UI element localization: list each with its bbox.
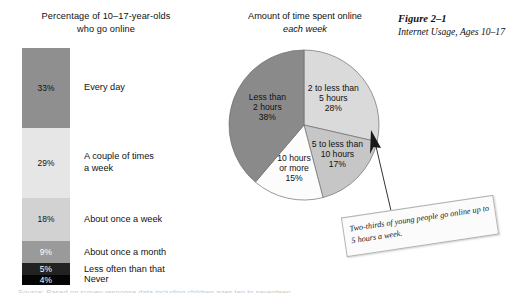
bar-segment-label: Less often than that: [84, 264, 165, 275]
bar-segment-value: 5%: [40, 265, 52, 273]
pie-slices: [229, 50, 379, 200]
bar-segment-label: About once a week: [84, 214, 162, 225]
bar-title-line-1: Percentage of 10–17-year-olds: [8, 10, 204, 23]
bar-segment-value: 29%: [37, 159, 54, 167]
bar-segment-value: 18%: [37, 215, 54, 223]
figure-number: Figure 2–1: [398, 12, 516, 26]
bar-segment-value: 4%: [40, 276, 52, 284]
source-note: Source: Based on survey response data in…: [18, 288, 488, 293]
pie-title-line-1: Amount of time spent online: [212, 10, 398, 23]
pie-title-line-2: each week: [212, 23, 398, 36]
figure-page: Percentage of 10–17-year-olds who go onl…: [0, 0, 518, 293]
figure-caption: Figure 2–1 Internet Usage, Ages 10–17: [398, 12, 516, 39]
bar-segment: 9%: [22, 241, 70, 263]
bar-segment: 4%: [22, 275, 70, 285]
stacked-bar: 33%29%18%9%5%4%: [22, 48, 70, 285]
bar-segment: 5%: [22, 263, 70, 275]
bar-chart-panel: Percentage of 10–17-year-olds who go onl…: [0, 0, 212, 293]
bar-segment: 33%: [22, 48, 70, 128]
bar-segment: 29%: [22, 128, 70, 198]
bar-segment-label: Never: [84, 274, 109, 285]
bar-segment-label: About once a month: [84, 247, 166, 258]
bar-title-line-2: who go online: [8, 23, 204, 36]
pie-chart-graphic: 2 to less than5 hours28%5 to less than10…: [211, 38, 397, 218]
bar-segment-label: A couple of times a week: [84, 151, 154, 174]
bar-segment-value: 33%: [37, 84, 54, 92]
pie-chart-title: Amount of time spent online each week: [212, 10, 398, 36]
bar-chart-title: Percentage of 10–17-year-olds who go onl…: [8, 10, 204, 36]
bar-segment-label: Every day: [84, 82, 125, 93]
bar-segment: 18%: [22, 198, 70, 242]
figure-description: Internet Usage, Ages 10–17: [398, 26, 516, 39]
bar-segment-value: 9%: [40, 248, 52, 256]
